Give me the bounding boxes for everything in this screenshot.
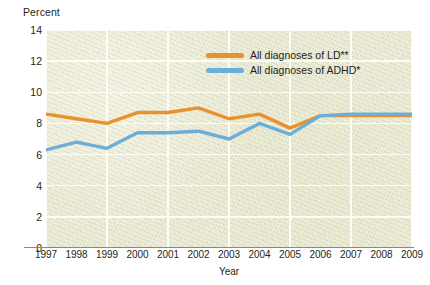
- x-tick-label-2009: 2009: [392, 250, 430, 260]
- legend-item-ld: All diagnoses of LD**: [206, 50, 360, 62]
- y-tick-label-14: 14: [16, 25, 42, 36]
- y-axis-ticks: 02468101214: [12, 30, 42, 248]
- y-tick-label-8: 8: [16, 118, 42, 129]
- legend-item-adhd: All diagnoses of ADHD*: [206, 65, 360, 77]
- legend-label-ld: All diagnoses of LD**: [250, 50, 349, 62]
- line-chart-figure: Percent 02468101214 19971998199920002001…: [0, 0, 430, 285]
- legend-swatch-adhd-icon: [206, 68, 244, 73]
- series-line-ld: [46, 108, 412, 128]
- y-tick-label-2: 2: [16, 212, 42, 223]
- legend-swatch-ld-icon: [206, 53, 244, 58]
- x-axis-label: Year: [46, 266, 412, 277]
- y-tick-label-6: 6: [16, 150, 42, 161]
- chart-legend: All diagnoses of LD** All diagnoses of A…: [206, 50, 360, 76]
- y-tick-label-12: 12: [16, 56, 42, 67]
- y-axis-label: Percent: [23, 6, 60, 18]
- legend-label-adhd: All diagnoses of ADHD*: [250, 65, 360, 77]
- y-tick-label-10: 10: [16, 87, 42, 98]
- x-axis-line: [24, 247, 414, 248]
- x-axis-ticks: 1997199819992000200120022003200420052006…: [46, 250, 412, 264]
- y-tick-label-4: 4: [16, 181, 42, 192]
